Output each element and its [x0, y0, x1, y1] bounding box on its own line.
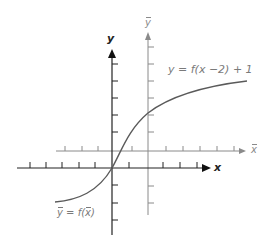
- y-arrow-icon: [108, 49, 116, 58]
- x-bar-arrow-icon: [239, 148, 246, 154]
- y-axis-label: y: [107, 33, 114, 44]
- diagram-canvas: [0, 0, 273, 245]
- y-ticks: [112, 64, 118, 220]
- x-bar-symbol: x: [85, 208, 91, 218]
- function-curve: [55, 81, 247, 202]
- x-arrow-icon: [202, 164, 211, 172]
- y-bar-symbol: y: [57, 208, 63, 218]
- x-bar-ticks: [65, 146, 234, 151]
- x-axis-label: x: [214, 162, 221, 173]
- y-bar-axis-label: y: [145, 18, 151, 28]
- xy-axes: [17, 56, 203, 235]
- curve-bar-equation: y = f(x): [57, 208, 95, 218]
- y-bar-ticks: [148, 47, 154, 203]
- curve-xy-equation: y = f(x −2) + 1: [168, 64, 253, 75]
- x-bar-axis-label: x: [251, 145, 257, 155]
- translated-axes-diagram: y x y x y = f(x −2) + 1 y = f(x): [0, 0, 273, 245]
- y-bar-arrow-icon: [145, 32, 151, 40]
